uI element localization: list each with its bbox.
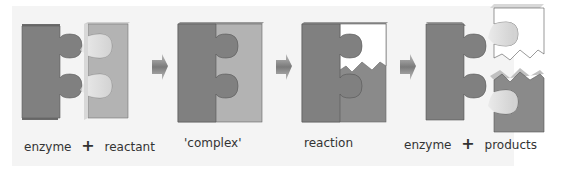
right-arrow-icon xyxy=(276,54,292,80)
product-upper-piece xyxy=(488,4,544,60)
enzyme-piece xyxy=(22,24,82,120)
right-arrow-icon xyxy=(400,54,416,80)
stage-2-label: 'complex' xyxy=(184,136,241,150)
plus-operator: + xyxy=(461,134,474,153)
reactant-piece xyxy=(80,22,130,120)
plus-operator: + xyxy=(81,136,94,155)
product-lower-piece xyxy=(488,68,544,132)
stage-1-label: enzyme + reactant xyxy=(24,136,155,155)
enzyme-piece xyxy=(426,22,486,120)
right-arrow-icon xyxy=(152,54,168,80)
stage-1-enzyme-reactant xyxy=(22,22,130,120)
reactant-label: reactant xyxy=(105,140,155,154)
products-label: products xyxy=(485,138,537,152)
enzyme-label: enzyme xyxy=(404,138,451,152)
stage-2-complex xyxy=(178,22,264,122)
enzyme-label: enzyme xyxy=(24,140,71,154)
stage-4-label: enzyme + products xyxy=(404,134,537,153)
stage-4-enzyme-products xyxy=(426,4,544,132)
stage-3-reaction xyxy=(302,22,388,122)
stage-3-label: reaction xyxy=(304,136,353,150)
